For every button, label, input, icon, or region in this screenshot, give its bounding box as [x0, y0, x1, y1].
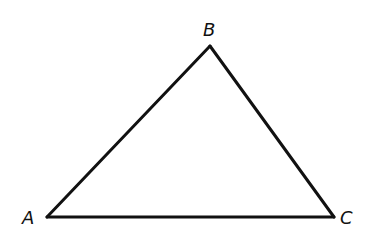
- edge-ab: [47, 46, 210, 217]
- vertex-label-b: B: [203, 19, 215, 40]
- vertex-label-c: C: [340, 207, 353, 228]
- triangle-diagram: B A C: [0, 0, 366, 238]
- vertex-label-a: A: [21, 207, 34, 228]
- edge-bc: [210, 46, 334, 217]
